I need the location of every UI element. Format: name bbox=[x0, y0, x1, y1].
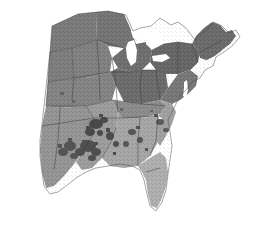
map-figure bbox=[0, 0, 260, 226]
us-east-map bbox=[0, 0, 260, 226]
